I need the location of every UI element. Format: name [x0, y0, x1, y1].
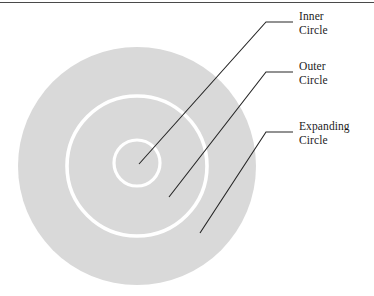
label-expanding-circle-line1: Expanding	[299, 120, 350, 132]
label-inner-circle-line2: Circle	[299, 24, 328, 38]
concentric-circles-diagram	[0, 0, 374, 296]
label-inner-circle-line1: Inner	[299, 10, 324, 22]
label-outer-circle-line1: Outer	[299, 60, 326, 72]
label-outer-circle-line2: Circle	[299, 74, 328, 88]
label-expanding-circle-line2: Circle	[299, 134, 350, 148]
expanding-circle-shape	[18, 47, 256, 285]
label-expanding-circle: Expanding Circle	[299, 120, 350, 147]
label-inner-circle: Inner Circle	[299, 10, 328, 37]
figure-canvas: Inner Circle Outer Circle Expanding Circ…	[0, 0, 374, 296]
label-outer-circle: Outer Circle	[299, 60, 328, 87]
